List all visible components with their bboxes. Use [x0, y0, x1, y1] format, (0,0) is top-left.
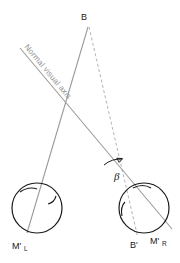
right-eye-label-sub: R — [162, 240, 167, 247]
normal-visual-axis-caption: Normal visual axis — [22, 43, 73, 101]
left-eye-reflex-arc-1 — [20, 188, 37, 192]
left-eye-outline — [12, 183, 62, 233]
eye-diagram-svg: β B B' M' L M' R Normal visual axis — [0, 0, 180, 263]
beta-label: β — [113, 170, 120, 182]
left-eye-reflex-arc-2 — [48, 196, 56, 204]
point-b-label: B — [81, 12, 87, 22]
point-b-prime-label: B' — [130, 240, 138, 250]
right-eye-outline — [119, 183, 169, 233]
normal-visual-axis-line — [20, 48, 172, 229]
left-eye-label-sub: L — [24, 245, 28, 252]
left-eye-label: M' — [12, 241, 21, 251]
right-object-ray-dashed — [89, 27, 138, 236]
right-eye-reflex-arc-1 — [122, 202, 125, 216]
figure-canvas: β B B' M' L M' R Normal visual axis — [0, 0, 180, 263]
right-eye-label: M' — [150, 236, 159, 246]
